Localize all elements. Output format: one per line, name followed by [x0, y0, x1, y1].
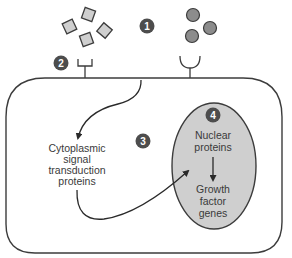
ligand-square [81, 7, 95, 21]
ligand-circle [186, 30, 199, 43]
cell-signaling-diagram: 1 2 3 4 Cytoplasmic signal transduction … [0, 0, 292, 258]
ligand-square [62, 19, 77, 34]
badge-3: 3 [136, 134, 151, 149]
round-receptor [180, 56, 200, 78]
arrow-receptor-to-cytoplasmic [78, 80, 141, 138]
badge-3-label: 3 [140, 136, 146, 147]
genes-line-2: factor [200, 195, 227, 207]
square-ligands [62, 7, 112, 46]
genes-line-1: Growth [196, 183, 230, 195]
badge-4-label: 4 [210, 110, 216, 121]
ligand-circle [187, 9, 200, 22]
cytoplasmic-line-4: proteins [58, 175, 95, 187]
badge-2: 2 [54, 56, 69, 71]
badge-4: 4 [206, 108, 221, 123]
growth-factor-genes-label: Growth factor genes [196, 183, 230, 219]
nuclear-line-1: Nuclear [195, 129, 232, 141]
ligand-square [97, 23, 112, 38]
nuclear-proteins-label: Nuclear proteins [194, 129, 231, 153]
badge-1: 1 [140, 19, 155, 34]
badge-2-label: 2 [58, 58, 64, 69]
ligand-square [79, 32, 93, 46]
badge-1-label: 1 [144, 21, 150, 32]
genes-line-3: genes [199, 207, 228, 219]
round-ligands [186, 9, 217, 43]
square-receptor [78, 59, 92, 78]
cytoplasmic-proteins-label: Cytoplasmic signal transduction proteins [48, 142, 105, 187]
ligand-circle [204, 22, 217, 35]
nuclear-line-2: proteins [194, 141, 231, 153]
